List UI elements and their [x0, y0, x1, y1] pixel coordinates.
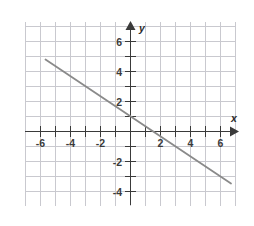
x-tick-label: -6 — [36, 137, 45, 149]
y-tick-label: -4 — [113, 186, 122, 198]
coordinate-graph: -6 -4 -2 2 4 6 6 4 2 -2 -4 x y — [0, 0, 254, 226]
y-axis-label: y — [138, 22, 146, 34]
y-tick-label: 2 — [116, 96, 122, 108]
x-axis-arrow-icon — [230, 127, 239, 137]
y-tick-label: 6 — [116, 36, 122, 48]
x-tick-label: -2 — [96, 137, 105, 149]
x-axis — [25, 127, 239, 137]
y-tick-label: -2 — [113, 156, 122, 168]
y-tick-label: 4 — [116, 66, 122, 78]
x-tick-label: 4 — [188, 137, 194, 149]
x-axis-label: x — [230, 112, 238, 124]
x-tick-label: 6 — [218, 137, 224, 149]
y-axis-arrow-icon — [126, 21, 136, 30]
graph-canvas: -6 -4 -2 2 4 6 6 4 2 -2 -4 x y — [0, 0, 254, 226]
x-tick-label: -4 — [66, 137, 75, 149]
line-series-plot — [46, 60, 232, 184]
